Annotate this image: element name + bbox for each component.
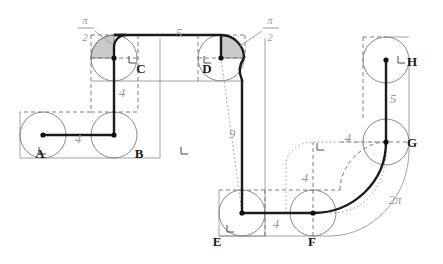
ra-b (181, 147, 188, 154)
angle-at-d-leader-line (240, 31, 262, 46)
main-path-layer (43, 35, 386, 213)
vertex-dot-F (310, 210, 315, 215)
dimension-label-dim-fg: 4 (302, 170, 309, 185)
vertex-dot-B (111, 132, 116, 137)
diagram-canvas: ABCDEFGH 445944452π π2π2 (0, 0, 443, 264)
vertex-dot-H (383, 57, 388, 62)
ra-h (398, 56, 405, 63)
vertex-label-F: F (308, 234, 316, 249)
vertex-dot-C (111, 55, 116, 60)
vertex-label-E: E (213, 234, 222, 249)
dimension-label-arc-fg: 2π (388, 192, 402, 207)
vertex-label-G: G (407, 135, 417, 150)
dimension-label-dim-ab: 4 (75, 131, 82, 146)
dimension-label-dim-bc: 4 (119, 85, 126, 100)
arc-fg (313, 142, 386, 213)
angle-at-c-numerator: π (82, 14, 88, 26)
fillet-at-c (114, 35, 126, 58)
vertex-label-D: D (202, 61, 211, 76)
vertex-label-A: A (35, 146, 45, 161)
angle-at-c-denominator: 2 (82, 31, 88, 43)
sector-at-c (91, 35, 114, 58)
angle-at-c: π2 (78, 14, 113, 45)
ra-f (317, 143, 324, 150)
angle-at-d-denominator: 2 (267, 31, 273, 43)
dimension-label-dim-cd: 5 (176, 25, 183, 40)
vertex-label-C: C (136, 61, 145, 76)
vertex-dot-E (239, 210, 244, 215)
vertex-label-B: B (135, 146, 144, 161)
angle-at-d-numerator: π (267, 14, 273, 26)
dimension-label-dim-de: 9 (229, 126, 236, 141)
ra-c (129, 56, 136, 63)
dotted-dimension-paths (43, 35, 386, 213)
vertex-dot-D (218, 55, 223, 60)
dimension-label-dim-gh: 5 (390, 91, 397, 106)
dot-arc-fg-center (330, 150, 386, 213)
angle-at-d: π2 (240, 14, 279, 46)
vertex-label-H: H (407, 54, 417, 69)
dimension-label-dim-gh-offset: 4 (345, 130, 352, 145)
dimension-label-dim-ef: 4 (273, 216, 280, 231)
vertex-dot-G (383, 139, 388, 144)
vertex-dot-A (40, 132, 45, 137)
